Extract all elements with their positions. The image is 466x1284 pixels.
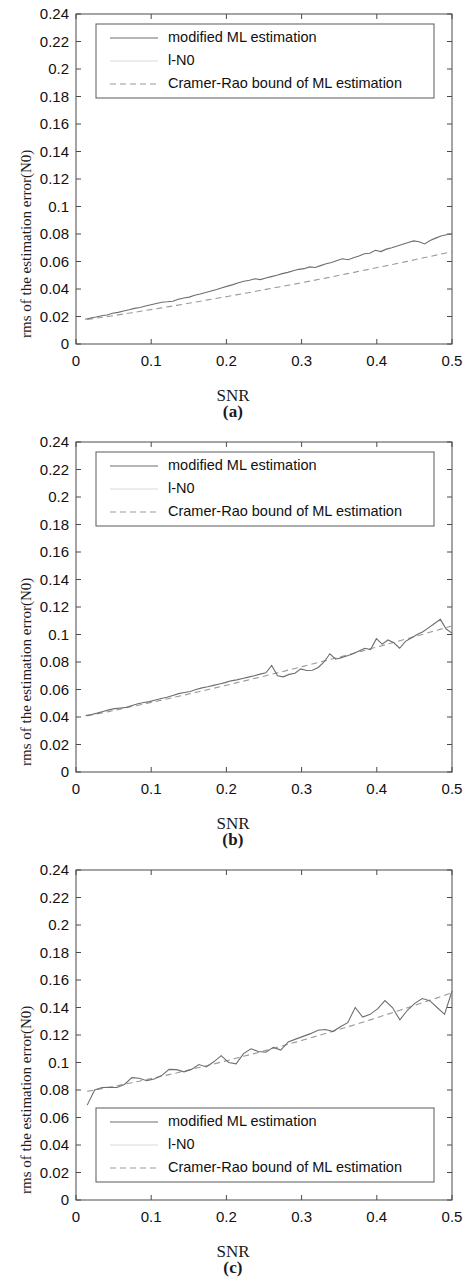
y-tick-label: 0.14 (40, 143, 69, 160)
legend-label: Cramer-Rao bound of ML estimation (168, 1159, 402, 1175)
plot-area-a: 00.020.040.060.080.10.120.140.160.180.20… (0, 0, 466, 428)
x-tick-label: 0.4 (366, 780, 387, 797)
legend-label: l-N0 (168, 480, 195, 496)
y-tick-label: 0.12 (40, 170, 69, 187)
y-tick-label: 0.12 (40, 598, 69, 615)
series-cramer-rao-bound (87, 252, 452, 320)
y-tick-label: 0 (61, 1191, 69, 1208)
y-tick-label: 0.22 (40, 889, 69, 906)
y-tick-label: 0.14 (40, 571, 69, 588)
plot-area-b: 00.020.040.060.080.10.120.140.160.180.20… (0, 428, 466, 856)
x-tick-label: 0.1 (141, 780, 162, 797)
x-tick-label: 0 (72, 1208, 80, 1225)
y-tick-label: 0.24 (40, 5, 69, 22)
y-tick-label: 0.06 (40, 681, 69, 698)
x-tick-label: 0.2 (216, 780, 237, 797)
y-tick-label: 0.08 (40, 225, 69, 242)
y-tick-label: 0.18 (40, 944, 69, 961)
y-tick-label: 0.2 (48, 916, 69, 933)
y-tick-label: 0.06 (40, 253, 69, 270)
y-tick-label: 0 (61, 763, 69, 780)
legend-label: Cramer-Rao bound of ML estimation (168, 75, 402, 91)
y-tick-label: 0.04 (40, 1136, 69, 1153)
y-tick-label: 0.22 (40, 33, 69, 50)
x-tick-label: 0.3 (291, 1208, 312, 1225)
y-tick-label: 0.02 (40, 1164, 69, 1181)
y-tick-label: 0.04 (40, 708, 69, 725)
series-modified-ml-estimation (86, 619, 452, 715)
x-tick-label: 0.5 (442, 1208, 463, 1225)
legend-label: l-N0 (168, 1136, 195, 1152)
x-tick-label: 0.1 (141, 1208, 162, 1225)
y-tick-label: 0.12 (40, 1026, 69, 1043)
chart-panel-a: rms of the estimation error(N0)SNR(a)00.… (0, 0, 466, 428)
series-modified-ml-estimation (87, 991, 452, 1105)
series-cramer-rao-bound (87, 993, 452, 1092)
y-tick-label: 0.16 (40, 971, 69, 988)
y-tick-label: 0.16 (40, 543, 69, 560)
x-tick-label: 0.1 (141, 352, 162, 369)
chart-panel-c: rms of the estimation error(N0)SNR(c)00.… (0, 856, 466, 1284)
y-tick-label: 0.02 (40, 736, 69, 753)
x-tick-label: 0.4 (366, 352, 387, 369)
y-tick-label: 0.2 (48, 60, 69, 77)
figure-root: rms of the estimation error(N0)SNR(a)00.… (0, 0, 466, 1284)
y-tick-label: 0.14 (40, 999, 69, 1016)
y-tick-label: 0.08 (40, 1081, 69, 1098)
y-tick-label: 0.24 (40, 433, 69, 450)
y-tick-label: 0.04 (40, 280, 69, 297)
legend-label: modified ML estimation (168, 1113, 317, 1129)
x-tick-label: 0.5 (442, 352, 463, 369)
y-tick-label: 0.2 (48, 488, 69, 505)
legend-a: modified ML estimationl-N0Cramer-Rao bou… (96, 24, 434, 98)
chart-panel-b: rms of the estimation error(N0)SNR(b)00.… (0, 428, 466, 856)
x-tick-label: 0.3 (291, 352, 312, 369)
x-tick-label: 0.4 (366, 1208, 387, 1225)
legend-b: modified ML estimationl-N0Cramer-Rao bou… (96, 452, 434, 526)
legend-label: Cramer-Rao bound of ML estimation (168, 503, 402, 519)
x-tick-label: 0.2 (216, 352, 237, 369)
x-tick-label: 0 (72, 780, 80, 797)
y-tick-label: 0.24 (40, 861, 69, 878)
y-tick-label: 0.18 (40, 88, 69, 105)
y-tick-label: 0.06 (40, 1109, 69, 1126)
x-tick-label: 0.3 (291, 780, 312, 797)
y-tick-label: 0.18 (40, 516, 69, 533)
x-tick-label: 0.2 (216, 1208, 237, 1225)
y-tick-label: 0.08 (40, 653, 69, 670)
x-tick-label: 0 (72, 352, 80, 369)
legend-label: l-N0 (168, 52, 195, 68)
legend-label: modified ML estimation (168, 457, 317, 473)
y-tick-label: 0.02 (40, 308, 69, 325)
x-tick-label: 0.5 (442, 780, 463, 797)
plot-area-c: 00.020.040.060.080.10.120.140.160.180.20… (0, 856, 466, 1284)
y-tick-label: 0.1 (48, 626, 69, 643)
y-tick-label: 0.22 (40, 461, 69, 478)
legend-c: modified ML estimationl-N0Cramer-Rao bou… (96, 1108, 434, 1182)
y-tick-label: 0.1 (48, 198, 69, 215)
y-tick-label: 0 (61, 335, 69, 352)
series-modified-ml-estimation (85, 234, 452, 319)
y-tick-label: 0.1 (48, 1054, 69, 1071)
y-tick-label: 0.16 (40, 115, 69, 132)
legend-label: modified ML estimation (168, 29, 317, 45)
